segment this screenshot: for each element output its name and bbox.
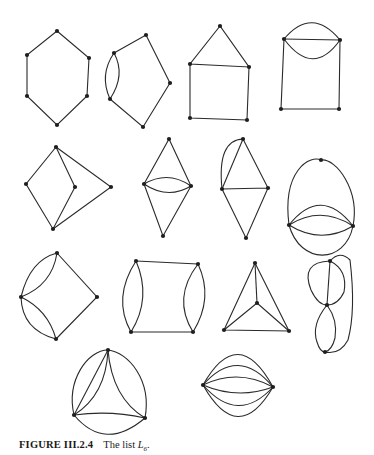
graph-vertex bbox=[109, 185, 113, 189]
graph-vertex bbox=[54, 337, 58, 341]
graph-vertex bbox=[167, 137, 171, 141]
graph-pentagon-double bbox=[105, 33, 172, 129]
graph-vertex bbox=[106, 348, 110, 352]
graph-edge bbox=[110, 35, 170, 127]
graph-vertex bbox=[112, 51, 116, 55]
graph-edge bbox=[74, 413, 145, 418]
graph-vertex bbox=[319, 158, 323, 162]
graph-vertex bbox=[55, 123, 59, 127]
graph-list-figure bbox=[0, 0, 374, 455]
graph-vertex bbox=[253, 261, 257, 265]
graph-vertex bbox=[338, 38, 342, 42]
graph-edge bbox=[21, 253, 57, 297]
graph-edge bbox=[224, 303, 289, 331]
graph-square-two-doubles bbox=[123, 259, 205, 334]
graph-edge bbox=[315, 305, 327, 352]
graph-edge bbox=[26, 147, 75, 229]
graph-diamond-double bbox=[142, 137, 193, 238]
graph-vertex bbox=[351, 224, 355, 228]
graph-edge bbox=[108, 350, 146, 418]
graph-vertex bbox=[143, 416, 147, 420]
graph-vertex bbox=[54, 145, 58, 149]
graph-figure-eight bbox=[308, 255, 353, 354]
graph-vertex bbox=[287, 329, 291, 333]
graph-edge bbox=[56, 253, 97, 339]
graph-vertex bbox=[241, 137, 245, 141]
graph-vertex bbox=[201, 383, 205, 387]
graph-vertex bbox=[188, 116, 192, 120]
graph-vertex bbox=[266, 186, 270, 190]
graph-vertex bbox=[144, 33, 148, 37]
graph-vertex bbox=[108, 97, 112, 101]
graph-edge bbox=[184, 264, 198, 332]
graph-kite-two-doubles bbox=[19, 251, 99, 341]
graph-edge bbox=[144, 177, 191, 186]
graph-vertex bbox=[196, 262, 200, 266]
graph-edge bbox=[281, 39, 340, 109]
graph-vertex bbox=[19, 295, 23, 299]
graph-edge bbox=[105, 53, 114, 99]
graph-edge bbox=[74, 350, 108, 415]
graph-vertex bbox=[325, 303, 329, 307]
graph-vertex bbox=[255, 301, 259, 305]
graph-edge bbox=[190, 26, 249, 67]
graph-vertex bbox=[72, 413, 76, 417]
graph-edge bbox=[327, 261, 330, 305]
graph-edge bbox=[123, 261, 136, 332]
graph-vertex bbox=[247, 65, 251, 69]
graph-vertex bbox=[85, 94, 89, 98]
graph-vertex bbox=[282, 37, 286, 41]
graph-egg bbox=[287, 158, 355, 255]
graph-vertex bbox=[87, 56, 91, 60]
graph-vertex bbox=[24, 182, 28, 186]
graph-edge bbox=[255, 263, 257, 303]
graph-vertex bbox=[244, 236, 248, 240]
graph-edge bbox=[222, 139, 243, 189]
graph-edge bbox=[190, 64, 249, 120]
graph-vertex bbox=[191, 330, 195, 334]
graph-vertex bbox=[222, 328, 226, 332]
graph-edge bbox=[284, 39, 340, 59]
graph-triangle-doubles bbox=[72, 348, 147, 434]
graph-kite-double-arc bbox=[220, 137, 270, 240]
graph-hexagon bbox=[25, 29, 91, 127]
graph-vertex bbox=[188, 62, 192, 66]
graph-vertex bbox=[271, 385, 275, 389]
graph-edge bbox=[136, 261, 198, 264]
graph-vertex bbox=[328, 259, 332, 263]
graph-vertex bbox=[218, 24, 222, 28]
graph-vertex bbox=[220, 187, 224, 191]
graph-edge bbox=[325, 305, 336, 352]
graph-sextuple-edge bbox=[201, 354, 275, 416]
graph-edge bbox=[27, 31, 89, 125]
graph-edge bbox=[74, 415, 145, 434]
graph-k4 bbox=[222, 261, 291, 333]
graph-vertex bbox=[25, 94, 29, 98]
graph-vertex bbox=[129, 330, 133, 334]
graph-edge bbox=[21, 253, 57, 297]
graph-vertex bbox=[168, 81, 172, 85]
graph-vertex bbox=[189, 184, 193, 188]
caption-end: . bbox=[147, 439, 150, 450]
graph-vertex bbox=[161, 234, 165, 238]
graph-edge bbox=[21, 297, 56, 339]
graph-vertex bbox=[51, 227, 55, 231]
graph-vertex bbox=[55, 29, 59, 33]
figure-caption: FIGURE III.2.4The list L6. bbox=[19, 439, 150, 453]
graph-square-triple-top bbox=[279, 23, 342, 111]
graph-vertex bbox=[25, 53, 29, 57]
graph-edge bbox=[131, 261, 143, 332]
graph-kite-k4minus bbox=[24, 145, 113, 231]
graph-vertex bbox=[245, 118, 249, 122]
caption-text: The list bbox=[103, 439, 137, 450]
graph-edge bbox=[284, 23, 340, 40]
graph-vertex bbox=[142, 182, 146, 186]
graph-vertex bbox=[134, 259, 138, 263]
graph-edge bbox=[289, 225, 353, 235]
graph-edge bbox=[144, 184, 191, 193]
graph-edge bbox=[222, 139, 268, 238]
graph-edge bbox=[284, 39, 340, 40]
caption-label: FIGURE III.2.4 bbox=[19, 439, 93, 450]
graph-edge bbox=[203, 377, 273, 387]
graph-vertex bbox=[55, 251, 59, 255]
